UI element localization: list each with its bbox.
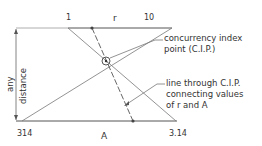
a-left-value: 314 [17,129,32,139]
arrow-down-icon [14,115,18,120]
connecting-line [92,28,133,121]
r-right-value: 10 [144,13,154,23]
cip-leader [110,40,163,58]
cip-annotation: concurrency index point (C.I.P.) [164,33,242,55]
a-point-marker [131,119,134,122]
r-point-marker [90,26,93,29]
through-line-leader [127,84,165,104]
nomograph-diagram [0,0,262,146]
dimension-label-line2: distance [18,68,28,104]
r-left-value: 1 [66,13,71,23]
arrow-up-icon [14,29,18,34]
a-right-value: 3.14 [169,129,187,139]
a-scale-label: A [101,131,107,141]
dimension-label-line1: any [5,76,15,92]
cip-dot [105,60,107,62]
r-scale-label: r [113,13,117,23]
diagonal-line [68,28,176,121]
through-line-annotation: line through C.I.P. connecting values of… [166,78,243,111]
